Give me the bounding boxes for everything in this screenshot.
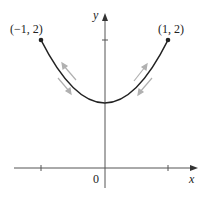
arrow-right-down-icon (140, 78, 152, 92)
y-axis-label: y (93, 8, 98, 23)
point-left-label: (−1, 2) (10, 22, 43, 37)
point-right-label: (1, 2) (158, 22, 184, 37)
point-left (39, 38, 44, 43)
arrow-left-up-icon (64, 66, 76, 80)
arrow-left-down-icon (58, 78, 69, 91)
point-right (166, 38, 171, 43)
origin-label: 0 (93, 172, 99, 187)
x-axis-arrow-icon (190, 165, 198, 171)
x-axis-label: x (189, 172, 194, 187)
y-axis-arrow-icon (102, 13, 108, 21)
